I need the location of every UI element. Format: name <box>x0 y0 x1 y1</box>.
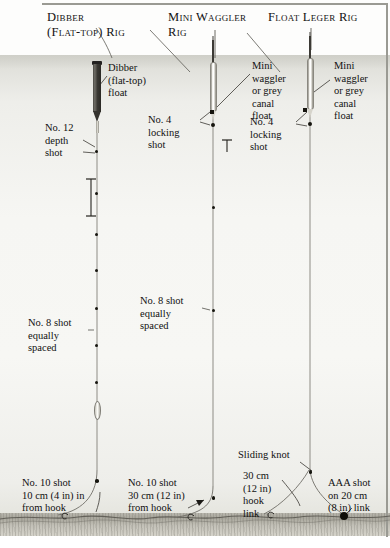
label-no-8-shot-mid: No. 8 shot equally spaced <box>140 295 183 333</box>
leader-waggler-left <box>216 74 250 108</box>
mini-waggler-antenna-rig2 <box>212 40 214 64</box>
mini-waggler-antenna-rig3 <box>309 36 311 60</box>
mini-waggler-body-rig3 <box>307 58 314 110</box>
label-dibber-float: Dibber (flat-top) float <box>108 62 146 100</box>
label-hook-link: 30 cm (12 in) hook link <box>243 470 271 520</box>
dibber-float-stem <box>96 121 99 133</box>
leader-no8-mid <box>202 308 210 310</box>
leader-no10-left <box>96 492 100 512</box>
dibber-float-body <box>93 64 101 112</box>
label-no-4-locking-shot-left: No. 4 locking shot <box>148 114 180 152</box>
label-mini-waggler-right: Mini waggler or grey canal float <box>334 60 368 123</box>
sliding-knot-marker <box>309 470 313 474</box>
label-no-12-depth-shot: No. 12 depth shot <box>45 122 74 160</box>
riverbed-contour <box>0 516 390 519</box>
shot-no-4-locking-rig3-upper <box>303 108 307 112</box>
rig1-inline-bead <box>94 401 101 420</box>
leader-no4-left-b <box>200 122 210 125</box>
leader-no4-right-b <box>296 124 307 126</box>
label-no-8-shot-left: No. 8 shot equally spaced <box>28 317 71 355</box>
title-dibber-rig: Dibber (Flat-top) Rig <box>47 10 125 40</box>
label-mini-waggler-left: Mini waggler or grey canal float <box>252 60 286 123</box>
shot-no-4-locking-rig2-lower <box>211 123 215 127</box>
diagram-vector-overlay <box>0 0 390 548</box>
leader-no12-b <box>83 152 95 153</box>
label-no-10-shot-mid: No. 10 shot 30 cm (12 in) from hook <box>128 477 185 515</box>
label-no-10-shot-left: No. 10 shot 10 cm (4 in) in from hook <box>22 477 84 515</box>
shot-no-4-locking-rig2-upper <box>210 110 214 114</box>
leader-no4-right-a <box>296 112 307 122</box>
label-sliding-knot: Sliding knot <box>238 449 290 462</box>
leader-no12-a <box>83 140 95 147</box>
title-float-leger-rig: Float Leger Rig <box>268 10 358 25</box>
shot-no-10-rig2 <box>212 496 216 500</box>
leader-no4-left-a <box>200 112 210 120</box>
riverbed-contour-2 <box>0 520 390 523</box>
label-aaa-shot: AAA shot on 20 cm (8 in) link <box>328 477 370 515</box>
mini-waggler-tip-rig3 <box>307 109 313 118</box>
rig-diagram-figure: Dibber (Flat-top) Rig Mini Waggler Rig F… <box>0 0 390 548</box>
label-no-4-locking-shot-right: No. 4 locking shot <box>250 116 282 154</box>
title-mini-waggler-rig: Mini Waggler Rig <box>168 10 246 40</box>
mini-waggler-body-rig2 <box>210 62 217 112</box>
leader-waggler-right <box>314 80 330 92</box>
shot-no-10-rig1 <box>95 479 99 483</box>
